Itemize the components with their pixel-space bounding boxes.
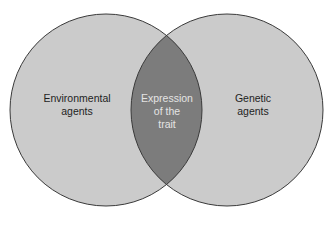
expression-of-trait-label-line-1: Expression bbox=[127, 92, 207, 105]
expression-of-trait-label: Expression of the trait bbox=[127, 92, 207, 131]
genetic-agents-label-line-2: agents bbox=[213, 105, 293, 118]
environmental-agents-label-line-2: agents bbox=[27, 105, 127, 118]
expression-of-trait-label-line-2: of the bbox=[127, 105, 207, 118]
genetic-agents-label: Genetic agents bbox=[213, 92, 293, 118]
environmental-agents-label-line-1: Environmental bbox=[27, 92, 127, 105]
environmental-agents-label: Environmental agents bbox=[27, 92, 127, 118]
expression-of-trait-label-line-3: trait bbox=[127, 118, 207, 131]
genetic-agents-label-line-1: Genetic bbox=[213, 92, 293, 105]
